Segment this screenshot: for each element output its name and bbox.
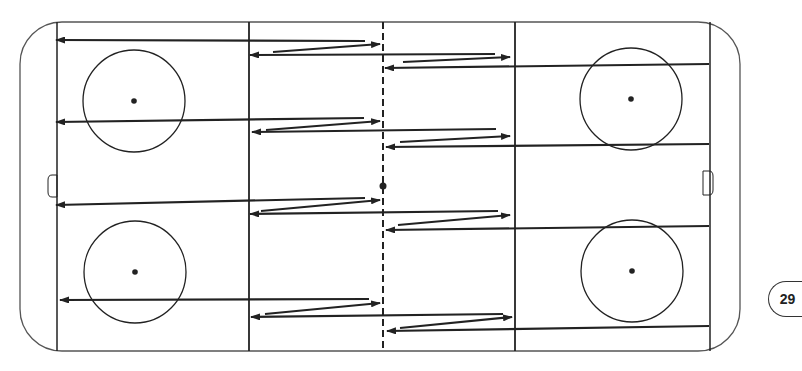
skating-path-arrow [60,299,369,300]
skating-path-arrow [400,136,510,142]
goal-crease-right [703,171,713,195]
skating-path-arrow [56,118,364,122]
goal-crease-left [48,175,57,197]
skating-path-arrow [251,314,503,317]
skating-path-arrow [387,326,709,331]
skating-path-arrow [250,54,495,55]
center-faceoff-dot [380,183,387,190]
rink-lines [57,22,710,351]
skating-path-arrow [56,40,365,41]
skating-path-arrow [261,200,380,211]
skating-path-arrow [56,198,365,205]
skating-path-arrow [266,121,380,130]
rink-diagram [0,0,802,371]
page-number-badge: 29 [768,281,802,317]
skating-path-arrow [386,144,709,147]
skating-path-arrow [265,303,380,314]
faceoff-dot-top-right [628,96,634,102]
faceoff-dot-bottom-right [629,268,635,274]
skating-path-arrow [273,44,380,52]
skating-path-arrow [250,211,498,214]
skating-path-arrow [385,64,709,68]
drill-lane-4 [60,299,709,331]
faceoff-dot-top-left [131,98,137,104]
skating-path-arrow [400,317,512,328]
faceoff-dot-bottom-left [132,269,138,275]
skating-path-arrow [398,215,510,225]
skating-path-arrow [403,57,510,62]
skating-path-arrow [252,129,496,132]
